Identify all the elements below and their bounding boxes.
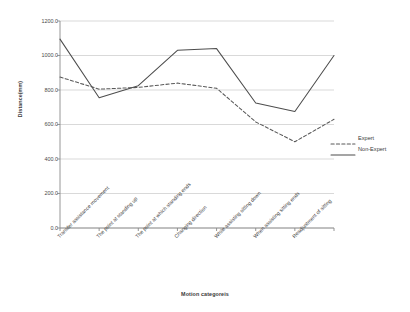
data-series-group	[60, 39, 334, 142]
y-tick-label-1000.0: 1000.0	[22, 52, 58, 58]
y-tick-label-800.0: 800.0	[22, 87, 58, 93]
legend-label: Non-Expert	[358, 146, 386, 152]
legend-swatch-solid	[330, 145, 356, 153]
y-tick-label-200.0: 200.0	[22, 190, 58, 196]
legend-label: Expert	[358, 135, 374, 141]
legend-item-non-expert[interactable]: Non-Expert	[330, 143, 406, 154]
legend-swatch-dashed	[330, 134, 356, 142]
line-chart: Distance(mm) 0.0200.0400.0600.0800.01000…	[0, 0, 410, 312]
series-line-non-expert[interactable]	[60, 39, 334, 111]
y-tick-label-0.0: 0.0	[22, 225, 58, 231]
series-line-expert[interactable]	[60, 77, 334, 142]
y-tick-label-600.0: 600.0	[22, 121, 58, 127]
y-tick-label-400.0: 400.0	[22, 156, 58, 162]
chart-legend: ExpertNon-Expert	[330, 132, 406, 154]
y-axis-tick-labels: 0.0200.0400.0600.0800.01000.01200.0	[20, 0, 58, 312]
x-axis-title: Motion categoreis	[0, 291, 410, 297]
legend-item-expert[interactable]: Expert	[330, 132, 406, 143]
y-tick-label-1200.0: 1200.0	[22, 18, 58, 24]
